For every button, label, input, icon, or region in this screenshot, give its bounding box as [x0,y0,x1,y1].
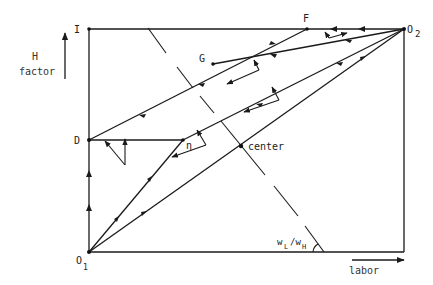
label-G: G [199,53,205,64]
label-O1-sub: 1 [83,263,88,272]
path-eta-O2 [183,29,404,140]
point-O2 [402,27,406,31]
point-F [305,27,309,31]
axis-label-labor: labor [349,265,379,276]
label-D: D [74,135,80,146]
angle-arc [313,244,318,252]
label-O2: O [407,24,413,35]
label-O2-sub: 2 [415,29,420,39]
point-O1 [87,250,91,254]
label-O1: O [76,255,82,266]
point-G [211,62,215,66]
axis-label-factor: factor [19,66,55,77]
point-center [239,144,243,148]
label-wage-slash-w: /w [290,237,301,247]
label-wage-w1: w [277,237,283,247]
label-wage-H: H [302,243,306,251]
label-F: F [303,13,309,24]
upper-contract-paths [89,29,404,140]
point-labels: I D O 1 O 2 F G η center w L /w H [74,13,420,272]
edgeworth-box-diagram: I D O 1 O 2 F G η center w L /w H H fact… [0,0,433,285]
label-I: I [74,24,80,35]
point-D [87,138,91,142]
point-I [87,27,91,31]
path-D-F [89,29,307,140]
path-G-O2 [213,29,404,64]
label-wage-L: L [284,243,288,251]
label-center: center [248,141,284,152]
label-eta: η [186,140,192,151]
axis-label-h: H [32,51,38,62]
direction-vectors [105,32,347,165]
point-eta [181,138,185,142]
